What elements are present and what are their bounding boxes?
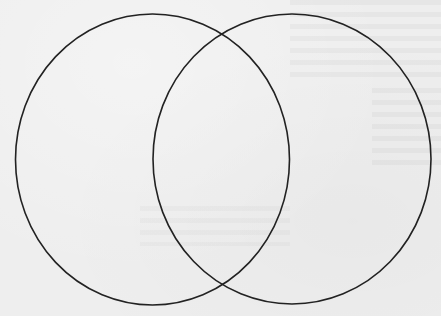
venn-diagram — [0, 0, 441, 316]
worksheet-page — [0, 0, 441, 316]
venn-circle-right — [153, 14, 431, 304]
